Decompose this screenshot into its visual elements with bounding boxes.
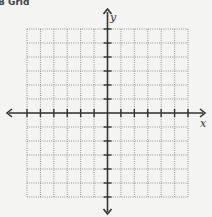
header-text: B Grid [0, 0, 29, 7]
coordinate-plane: B Grid y x [0, 0, 212, 217]
y-axis-label: y [109, 11, 117, 24]
x-axis-label: x [200, 117, 207, 130]
